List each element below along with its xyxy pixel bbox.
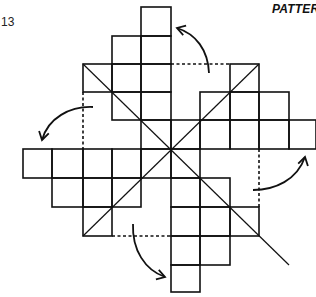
grid-cell — [141, 36, 171, 64]
grid-cell — [52, 178, 83, 207]
grid-cell — [230, 92, 259, 120]
grid-cell — [171, 265, 200, 292]
grid-cell — [171, 178, 200, 207]
grid-cell — [259, 120, 289, 149]
grid-cell — [171, 207, 200, 236]
grid-cell — [200, 207, 230, 236]
bottom-fold-arrow — [133, 224, 165, 277]
grid-cell — [289, 120, 316, 149]
grid-cell — [141, 64, 171, 92]
grid-cell — [171, 120, 200, 149]
grid-cell — [230, 120, 259, 149]
grid-cell — [141, 92, 171, 120]
diagonal-line — [83, 64, 289, 265]
grid-cell — [83, 178, 112, 207]
grid-cell — [112, 64, 141, 92]
grid-cell — [52, 149, 83, 178]
grid-cell — [200, 236, 230, 265]
grid-cell — [259, 92, 289, 120]
diagonal-lines — [83, 64, 289, 265]
grid-cell — [141, 7, 171, 36]
grid-cell — [83, 149, 112, 178]
grid-cell — [141, 149, 171, 178]
fold-pattern-diagram — [0, 0, 316, 297]
right-fold-arrow — [253, 157, 305, 190]
grid-cell — [23, 149, 52, 178]
grid-cell — [171, 236, 200, 265]
grid-cell — [200, 120, 230, 149]
grid-cell — [112, 36, 141, 64]
grid-cell — [112, 149, 141, 178]
left-fold-arrow — [42, 107, 93, 140]
